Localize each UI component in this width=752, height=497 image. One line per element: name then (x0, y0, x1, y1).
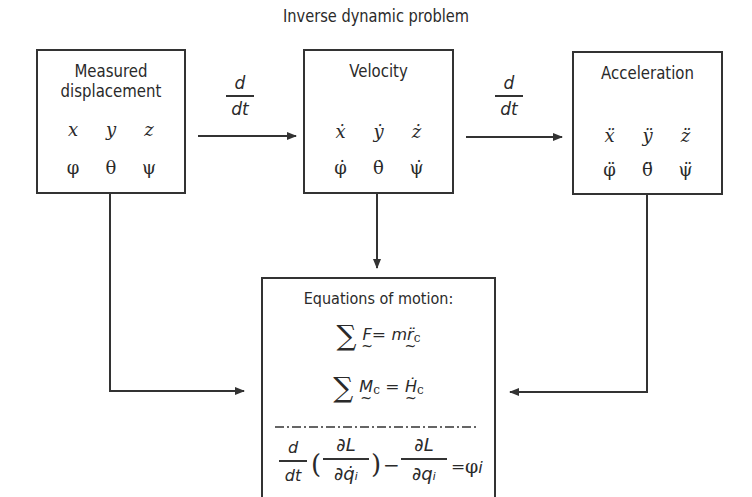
symbol-psi-ddot: ψ̈ (678, 159, 694, 180)
generalized-force: φi (465, 455, 483, 477)
moment-vector: M (359, 377, 373, 396)
symbol-phi: φ (65, 157, 81, 178)
equations-label: Equations of motion: (275, 289, 483, 308)
symbol-x-dot: ẋ (333, 121, 349, 142)
derivative-label-2: d dt (491, 73, 527, 119)
derivative-1-numerator: d (222, 73, 258, 93)
derivative-2-numerator: d (491, 73, 527, 93)
box-velocity: Velocity ẋ ẏ ż φ̇ θ̇ ψ̇ (303, 49, 454, 194)
diagram-title: Inverse dynamic problem (53, 6, 700, 26)
equals-sign: = (385, 376, 399, 396)
derivative-1-bar (226, 95, 254, 97)
velocity-rotational: φ̇ θ̇ ψ̇ (305, 157, 452, 178)
derivative-2-bar (495, 95, 523, 97)
minus-sign: − (383, 453, 400, 477)
symbol-y-dot: ẏ (371, 121, 387, 142)
equation-lagrange: d dt ( ∂L ∂q̇ᵢ ) − ∂L ∂qᵢ = φi (279, 437, 489, 497)
phi-symbol: φ (465, 455, 478, 477)
symbol-theta: θ (103, 157, 119, 178)
symbol-x: x (65, 119, 81, 140)
velocity-label: Velocity (314, 61, 443, 81)
force-vector: F (363, 325, 372, 344)
symbol-theta-ddot: θ̈ (640, 159, 656, 180)
partial-L: ∂L (414, 434, 433, 455)
subscript-c: c (373, 383, 380, 397)
lagrange-bar-2 (323, 458, 369, 460)
symbol-y: y (103, 119, 119, 140)
displacement-label-line1: Measured (47, 61, 175, 81)
equals-sign: = (451, 456, 465, 476)
equation-euler: ∑Mc = Ḣc (263, 371, 494, 404)
displacement-label-line2: displacement (47, 81, 175, 101)
symbol-psi-dot: ψ̇ (409, 157, 425, 178)
acceleration-vector: r̈ (407, 325, 414, 344)
sigma-symbol: ∑ (337, 319, 357, 352)
lagrange-dL-dqdot: ∂L ∂q̇ᵢ (323, 434, 369, 484)
symbol-x-ddot: ẍ (602, 125, 618, 146)
box-acceleration: Acceleration ẍ ÿ z̈ φ̈ θ̈ ψ̈ (572, 51, 723, 195)
box-equations-of-motion: Equations of motion: ∑F= mr̈c ∑Mc = Ḣc d… (261, 277, 496, 497)
symbol-z: z (141, 119, 157, 140)
lagrange-dL-dq: ∂L ∂qᵢ (401, 434, 447, 484)
lagrange-d: d (288, 438, 298, 457)
lagrange-bar-3 (401, 458, 447, 460)
displacement-translational: x y z (38, 119, 184, 140)
symbol-psi: ψ (141, 157, 157, 178)
symbol-z-ddot: z̈ (678, 125, 694, 146)
derivative-1-denominator: dt (222, 99, 258, 119)
subscript-i: i (478, 458, 482, 477)
open-paren: ( (311, 449, 321, 479)
acceleration-translational: ẍ ÿ z̈ (574, 125, 721, 146)
partial-L: ∂L (336, 434, 355, 455)
symbol-phi-dot: φ̇ (333, 157, 349, 178)
acceleration-label: Acceleration (583, 63, 712, 83)
close-paren: ) (371, 449, 381, 479)
derivative-label-1: d dt (222, 73, 258, 119)
partial-qdot: ∂q̇ᵢ (334, 463, 358, 484)
sigma-symbol: ∑ (333, 371, 353, 404)
lagrange-d-dt: d dt (279, 437, 307, 485)
arrow-displacement-to-equations (110, 193, 244, 391)
dash-dot-separator (275, 425, 477, 429)
symbol-phi-ddot: φ̈ (602, 159, 618, 180)
angular-momentum-rate: Ḣ (405, 377, 417, 396)
symbol-z-dot: ż (409, 121, 425, 142)
subscript-c: c (417, 383, 424, 397)
displacement-label: Measured displacement (47, 61, 175, 101)
arrow-acceleration-to-equations (510, 194, 647, 392)
lagrange-bar-1 (279, 460, 307, 462)
box-measured-displacement: Measured displacement x y z φ θ ψ (36, 49, 186, 194)
velocity-translational: ẋ ẏ ż (305, 121, 452, 142)
lagrange-dt: dt (285, 466, 301, 485)
acceleration-rotational: φ̈ θ̈ ψ̈ (574, 159, 721, 180)
displacement-rotational: φ θ ψ (38, 157, 184, 178)
partial-q: ∂qᵢ (412, 463, 436, 484)
symbol-y-ddot: ÿ (640, 125, 656, 146)
derivative-2-denominator: dt (491, 99, 527, 119)
equation-newton: ∑F= mr̈c (263, 319, 494, 352)
equals-sign: = (372, 324, 386, 344)
symbol-theta-dot: θ̇ (371, 157, 387, 178)
